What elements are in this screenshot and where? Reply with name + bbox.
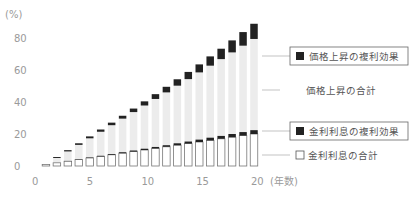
x-tick-label: 10 [142,176,155,187]
bar-interest-total [174,145,182,166]
bar-interest-total [130,152,138,166]
bar-interest-compound [185,142,193,144]
bar-interest-total [163,147,171,166]
bar-price-total [185,79,193,141]
bar-price-compound [185,72,193,79]
bar-price-total [152,99,160,147]
bar-price-total [64,151,72,161]
bar-price-total [75,145,83,159]
bar-interest-compound [119,152,127,153]
bar-price-compound [97,130,105,132]
y-tick-label: 0 [14,161,20,172]
bar-price-compound [119,116,127,119]
bar-price-compound [130,109,138,113]
bar-interest-compound [196,140,204,142]
bar-interest-compound [174,143,182,145]
legend-label-interest-total: 金利利息の合計 [308,150,378,161]
bar-interest-compound [206,138,214,141]
bar-interest-compound [163,145,171,147]
bar-interest-total [86,158,94,166]
y-tick-label: 40 [14,97,27,108]
bar-price-compound [239,32,247,46]
bar-interest-total [53,163,61,166]
bar-interest-total [152,148,160,166]
bar-price-compound [53,157,61,158]
bar-interest-total [108,155,116,166]
y-tick-label: 20 [14,129,27,140]
bar-interest-total [239,136,247,166]
bar-interest-total [185,144,193,166]
y-tick-label: 60 [14,65,27,76]
bar-interest-compound [108,154,116,155]
y-axis-ticks: 020406080 [14,33,27,172]
bar-price-total [174,86,182,144]
bar-price-compound [228,40,236,52]
legend-label-price-compound: 価格上昇の複利効果 [309,51,399,62]
bar-price-total [206,66,214,138]
bar-price-total [108,125,116,154]
bar-price-compound [196,64,204,72]
legend-marker-interest-compound [296,127,304,135]
bar-price-compound [206,56,214,65]
legend-label-price-total: 価格上昇の合計 [306,85,376,96]
bar-interest-compound [250,130,258,134]
bar-interest-compound [239,132,247,136]
y-axis-unit: (%) [5,9,22,20]
bar-price-compound [75,143,83,145]
bar-interest-total [141,150,149,166]
x-tick-label: 5 [87,176,93,187]
bar-price-total [86,138,94,157]
bar-price-compound [163,87,171,93]
bar-price-total [250,39,258,130]
bar-interest-compound [130,150,138,151]
x-axis-unit: (年数) [270,175,298,187]
bar-price-total [163,92,171,145]
x-tick-label: 20 [251,176,264,187]
bar-interest-total [42,164,50,166]
bar-interest-total [228,137,236,166]
legend-marker-price-compound [296,52,304,60]
legend-marker-interest-total [296,151,304,159]
bar-interest-compound [97,156,105,157]
bar-interest-compound [152,147,160,148]
bar-price-compound [217,49,225,59]
bar-price-total [97,132,105,156]
bar-interest-compound [141,149,149,150]
bar-interest-total [196,142,204,166]
bar-price-total [217,59,225,136]
x-tick-label: 0 [32,176,38,187]
bar-price-total [228,52,236,134]
bar-price-compound [64,150,72,151]
bar-series [42,24,258,166]
bar-price-total [119,119,127,153]
x-tick-label: 15 [196,176,209,187]
bar-price-compound [86,136,94,138]
x-axis-ticks: 05101520 [32,176,264,187]
bar-price-total [239,46,247,132]
bar-price-total [141,106,149,149]
bar-price-total [53,158,61,163]
bar-interest-total [206,140,214,166]
bar-interest-total [64,161,72,166]
bar-interest-total [250,134,258,166]
bar-price-compound [174,79,182,85]
bar-price-compound [141,101,149,105]
bar-price-compound [250,24,258,39]
bar-interest-total [97,156,105,166]
bar-price-total [196,72,204,139]
bar-price-compound [152,94,160,99]
bar-interest-total [119,153,127,166]
bar-interest-compound [228,134,236,137]
bar-interest-total [75,160,83,166]
y-tick-label: 80 [14,33,27,44]
legend-label-interest-compound: 金利利息の複利効果 [309,126,399,137]
compound-effect-chart: (%) 020406080 05101520 (年数) 価格上昇の複利効果 価格… [0,0,419,200]
bar-price-compound [108,123,116,126]
bar-interest-compound [217,136,225,139]
bar-interest-total [217,139,225,166]
bar-price-total [130,112,138,150]
